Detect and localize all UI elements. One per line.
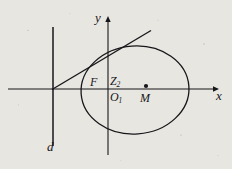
y-axis-label: y [95,11,101,24]
x-axis-label: x [216,89,222,102]
y-axis-arrowhead [105,16,110,22]
point-z2-label: Z2 [110,75,120,87]
center-label: M [140,92,150,104]
focus-label: F [90,76,97,88]
point-z2-letter: Z [110,74,117,88]
tangent-line [52,31,151,90]
point-z2-subscript: 2 [117,80,121,89]
center-point-dot [144,84,148,88]
ellipse-curve [78,42,192,137]
directrix-label: d [47,140,54,153]
origin-label: O1 [110,91,122,103]
origin-subscript: 1 [119,96,123,105]
geometry-figure: y x d F Z2 O1 M [0,0,232,169]
origin-letter: O [110,90,119,104]
